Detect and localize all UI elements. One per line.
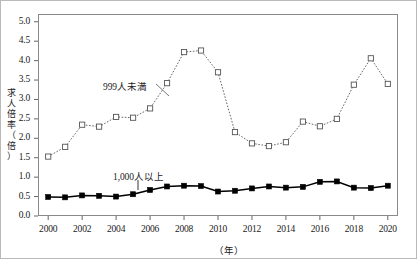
data-point-marker: [266, 184, 271, 189]
data-point-marker: [182, 183, 187, 188]
data-point-marker: [46, 154, 51, 159]
y-tick-label: 5.0: [4, 16, 30, 26]
data-point-marker: [385, 81, 390, 86]
data-point-marker: [114, 194, 119, 199]
data-point-marker: [317, 124, 322, 129]
data-point-marker: [249, 186, 254, 191]
data-point-marker: [215, 70, 220, 75]
data-point-marker: [351, 82, 356, 87]
data-point-marker: [46, 194, 51, 199]
data-point-marker: [181, 49, 186, 54]
data-point-marker: [249, 141, 254, 146]
data-point-marker: [232, 188, 237, 193]
y-tick-label: 4.5: [4, 35, 30, 45]
data-point-marker: [97, 124, 102, 129]
series-polyline: [48, 51, 388, 157]
data-point-marker: [368, 186, 373, 191]
data-point-marker: [164, 81, 169, 86]
x-axis-unit-label: （年）: [209, 243, 249, 257]
y-tick-label: 3.5: [4, 74, 30, 84]
data-point-marker: [80, 122, 85, 127]
series-line-999人未満: [46, 48, 391, 159]
data-point-marker: [351, 185, 356, 190]
y-axis-title-char: ）: [3, 151, 19, 162]
data-point-marker: [63, 195, 68, 200]
x-axis-ticks: [48, 216, 388, 220]
y-axis-title-char: 倍: [3, 109, 19, 120]
y-axis-ticks: [34, 22, 38, 216]
chart-figure: 0.00.51.01.52.02.53.03.54.04.55.0 200020…: [0, 0, 418, 260]
data-point-marker: [165, 184, 170, 189]
y-tick-label: 1.0: [4, 171, 30, 181]
y-tick-label: 0.0: [4, 210, 30, 220]
data-point-marker: [80, 193, 85, 198]
data-point-marker: [199, 184, 204, 189]
y-tick-label: 0.5: [4, 191, 30, 201]
series-line-1000人以上: [46, 179, 391, 200]
data-point-marker: [266, 143, 271, 148]
y-axis-title-char: 求: [3, 88, 19, 99]
data-point-marker: [300, 119, 305, 124]
data-point-marker: [283, 140, 288, 145]
data-point-marker: [334, 116, 339, 121]
data-point-marker: [63, 144, 68, 149]
data-point-marker: [198, 48, 203, 53]
data-point-marker: [114, 114, 119, 119]
data-point-marker: [300, 184, 305, 189]
chart-canvas: [0, 0, 418, 260]
data-point-marker: [283, 185, 288, 190]
data-point-marker: [232, 129, 237, 134]
data-point-marker: [334, 179, 339, 184]
y-axis-title-char: 率: [3, 120, 19, 131]
data-point-marker: [385, 183, 390, 188]
data-point-marker: [131, 192, 136, 197]
data-point-marker: [368, 56, 373, 61]
data-point-marker: [148, 187, 153, 192]
y-axis-title-char: （: [3, 130, 19, 141]
x-tick-label: 2020: [368, 224, 408, 234]
y-axis-title-char: 倍: [3, 141, 19, 152]
data-point-marker: [317, 179, 322, 184]
data-point-marker: [216, 189, 221, 194]
y-tick-label: 4.0: [4, 55, 30, 65]
data-point-marker: [130, 115, 135, 120]
y-axis-title: 求人倍率（倍）: [3, 88, 19, 162]
series-annotation-upper: 999人未満: [103, 79, 147, 93]
y-axis-title-char: 人: [3, 99, 19, 110]
series-annotation-lower: 1,000人以上: [113, 169, 164, 183]
data-point-marker: [147, 106, 152, 111]
data-point-marker: [97, 193, 102, 198]
